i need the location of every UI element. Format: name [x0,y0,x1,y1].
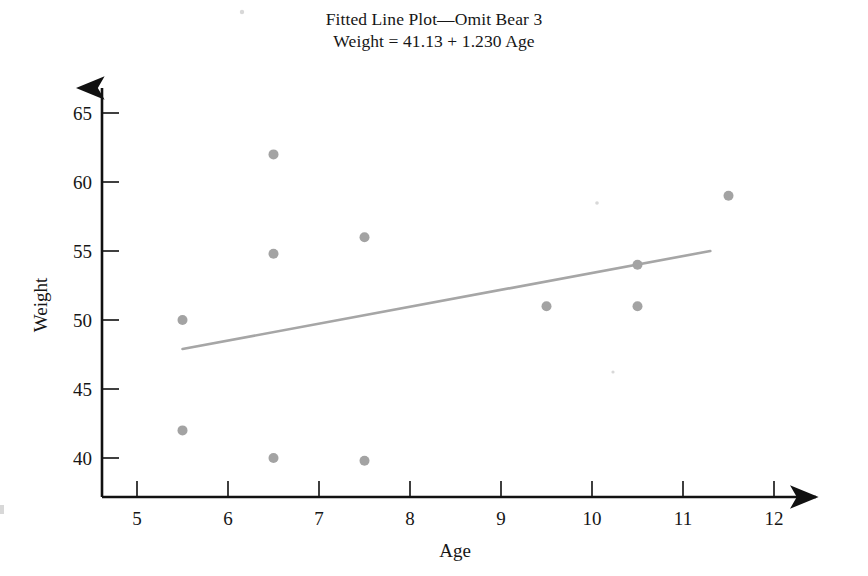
y-axis-ticks [103,113,119,458]
data-point [269,249,279,259]
y-tick-label-40: 40 [73,448,92,469]
y-axis-title: Weight [30,277,51,332]
y-tick-label-50: 50 [73,310,92,331]
data-point [724,191,734,201]
x-tick-label-12: 12 [765,508,784,529]
x-tick-label-10: 10 [583,508,602,529]
x-axis-title: Age [439,540,471,561]
y-tick-label-60: 60 [73,172,92,193]
scatter-plot-canvas: 40 45 50 55 60 65 5 6 7 8 9 10 11 12 [0,0,868,576]
x-tick-label-9: 9 [496,508,506,529]
y-tick-label-55: 55 [73,241,92,262]
scan-speck-icon [611,370,614,373]
x-axis-tick-labels: 5 6 7 8 9 10 11 12 [132,508,783,529]
scan-speck-icon [595,201,599,205]
x-tick-label-7: 7 [314,508,324,529]
data-point [360,456,370,466]
x-tick-label-6: 6 [223,508,233,529]
fitted-line-plot-figure: Fitted Line Plot—Omit Bear 3 Weight = 41… [0,0,868,576]
x-tick-label-5: 5 [132,508,142,529]
y-tick-label-45: 45 [73,379,92,400]
plot-axes [102,88,816,497]
data-point [542,301,552,311]
regression-fit-line [183,251,711,349]
data-point [269,453,279,463]
data-point [269,149,279,159]
data-point [178,315,188,325]
data-point-series [178,149,734,465]
data-point [178,425,188,435]
scan-speck-icon [240,10,244,14]
y-tick-label-65: 65 [73,103,92,124]
scan-edge-artifact [0,505,4,514]
x-axis-ticks [137,481,774,496]
x-tick-label-8: 8 [405,508,415,529]
data-point [360,232,370,242]
y-axis-tick-labels: 40 45 50 55 60 65 [73,103,92,469]
x-tick-label-11: 11 [674,508,692,529]
data-point [633,260,643,270]
data-point [633,301,643,311]
